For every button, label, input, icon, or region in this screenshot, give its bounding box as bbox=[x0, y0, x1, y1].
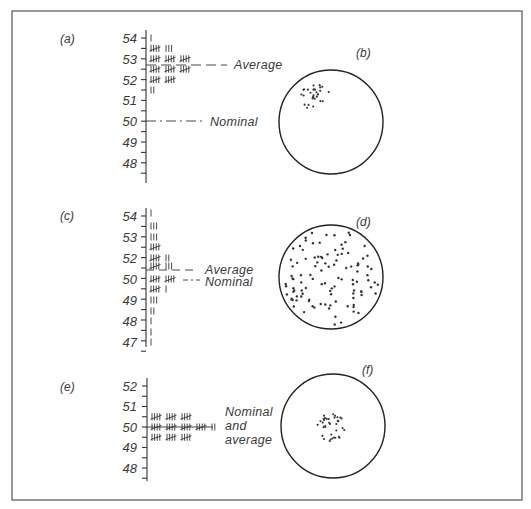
hit-dot bbox=[332, 413, 334, 415]
hit-dot bbox=[357, 262, 359, 264]
hit-dot bbox=[370, 268, 372, 270]
hit-dot bbox=[291, 298, 293, 300]
hit-dot bbox=[374, 292, 376, 294]
axis-label: 51 bbox=[123, 399, 137, 414]
hit-dot bbox=[353, 289, 355, 291]
panel-b-label: (b) bbox=[356, 46, 371, 60]
hit-dot bbox=[320, 256, 322, 258]
hit-dot bbox=[325, 234, 327, 236]
hit-dot bbox=[366, 274, 368, 276]
hit-dot bbox=[319, 100, 321, 102]
average-label: Average bbox=[233, 58, 282, 72]
hit-dot bbox=[317, 256, 319, 258]
hit-dot bbox=[329, 290, 331, 292]
hit-dot bbox=[320, 303, 322, 305]
hit-dot bbox=[347, 252, 349, 254]
hit-dot bbox=[328, 266, 330, 268]
panel-c-label: (c) bbox=[60, 209, 74, 223]
hit-dot bbox=[329, 440, 331, 442]
panel-e-label: (e) bbox=[60, 380, 75, 394]
panel-f-label: (f) bbox=[362, 363, 373, 377]
hit-dot bbox=[328, 418, 330, 420]
hit-dot bbox=[292, 287, 294, 289]
hit-dot bbox=[344, 241, 346, 243]
panel-d-label: (d) bbox=[356, 215, 371, 229]
hit-dot bbox=[335, 429, 337, 431]
hit-cluster-centre bbox=[317, 413, 346, 442]
axis-label: 48 bbox=[123, 314, 138, 329]
hit-dot bbox=[300, 281, 302, 283]
axis-label: 48 bbox=[123, 156, 138, 171]
hit-dot bbox=[343, 429, 345, 431]
hit-dot bbox=[363, 245, 365, 247]
axis-label: 49 bbox=[123, 293, 137, 308]
hit-dot bbox=[321, 86, 323, 88]
hit-dot bbox=[305, 239, 307, 241]
hit-dot bbox=[333, 234, 335, 236]
panel-c-tallies bbox=[150, 210, 176, 346]
hit-dot bbox=[374, 281, 376, 283]
panel-e-ticks bbox=[142, 386, 147, 478]
hit-dot bbox=[328, 91, 330, 93]
hit-dot bbox=[334, 437, 336, 439]
panel-e: (e) 52 51 50 49 48 Nominal and average bbox=[60, 378, 274, 481]
panel-a: (a) 54 53 52 51 50 49 48 Average Nominal bbox=[60, 30, 282, 183]
nominal-label: Nominal bbox=[225, 405, 274, 419]
hit-dot bbox=[338, 436, 340, 438]
panel-c-axis-labels: 54 53 52 50 49 48 47 bbox=[123, 209, 138, 350]
hit-dot bbox=[370, 286, 372, 288]
hit-dot bbox=[366, 254, 368, 256]
hit-dot bbox=[340, 278, 342, 280]
hit-dot bbox=[292, 265, 294, 267]
hit-dot bbox=[337, 277, 339, 279]
target-circle bbox=[281, 374, 385, 478]
hit-dot bbox=[352, 279, 354, 281]
hit-dot bbox=[310, 92, 312, 94]
hit-dot bbox=[286, 293, 288, 295]
hit-dot bbox=[334, 316, 336, 318]
axis-label: 48 bbox=[123, 461, 138, 476]
hit-dot bbox=[323, 438, 325, 440]
hit-dot bbox=[311, 232, 313, 234]
panel-c-ticks bbox=[141, 216, 146, 351]
hit-dot bbox=[335, 259, 337, 261]
panel-a-label: (a) bbox=[60, 32, 75, 46]
hit-dot bbox=[305, 287, 307, 289]
hit-dot bbox=[335, 300, 337, 302]
axis-label: 50 bbox=[123, 114, 138, 129]
hit-dot bbox=[321, 435, 323, 437]
panel-a-ticks bbox=[141, 38, 146, 173]
hit-dot bbox=[340, 244, 342, 246]
hit-dot bbox=[285, 285, 287, 287]
hit-dot bbox=[323, 426, 325, 428]
hit-dot bbox=[319, 86, 321, 88]
hit-dot bbox=[345, 267, 347, 269]
hit-dot bbox=[300, 93, 302, 95]
axis-label: 49 bbox=[123, 135, 137, 150]
hit-dot bbox=[304, 237, 306, 239]
hit-dot bbox=[301, 293, 303, 295]
hit-dot bbox=[335, 423, 337, 425]
nominal-label: Nominal bbox=[205, 275, 254, 289]
hit-dot bbox=[322, 422, 324, 424]
hit-dot bbox=[314, 265, 316, 267]
hit-dot bbox=[321, 283, 323, 285]
hit-dot bbox=[333, 285, 335, 287]
hit-dot bbox=[356, 270, 358, 272]
hit-dot bbox=[312, 242, 314, 244]
hit-dot bbox=[302, 249, 304, 251]
hit-dot bbox=[352, 297, 354, 299]
hit-dot bbox=[312, 84, 314, 86]
hit-dot bbox=[319, 90, 321, 92]
panel-a-tallies bbox=[150, 35, 191, 94]
hit-dot bbox=[324, 262, 326, 264]
hit-dot bbox=[296, 262, 298, 264]
hit-dot bbox=[328, 307, 330, 309]
figure-frame bbox=[12, 11, 522, 500]
hit-dot bbox=[308, 300, 310, 302]
hit-dot bbox=[307, 89, 309, 91]
hit-dot bbox=[356, 281, 358, 283]
hit-dot bbox=[328, 422, 330, 424]
hit-dot bbox=[307, 104, 309, 106]
hit-dot bbox=[315, 91, 317, 93]
